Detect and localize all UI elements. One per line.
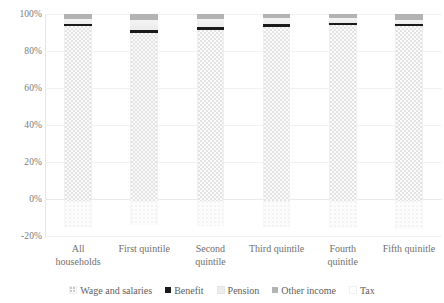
y-tick-0: 0% [0,194,42,204]
segment-pension[interactable] [130,20,158,29]
bar-3[interactable] [197,14,225,238]
x-label-all-households: All households [45,243,111,268]
x-label-line1: Fifth quinitle [376,243,442,256]
y-tick-80: 80% [0,46,42,56]
x-label-third-quintile: Third quintile [244,243,310,256]
legend-item-tax[interactable]: Tax [349,285,375,296]
gridline-80 [45,51,442,52]
benefit-swatch-icon [165,287,171,293]
x-label-line1: All [45,243,111,256]
segment-wage-and-salaries[interactable] [329,25,357,200]
segment-benefit[interactable] [64,24,92,26]
x-label-line2: quintile [177,256,243,269]
x-label-line2: quinitle [310,256,376,269]
segment-tax[interactable] [263,201,291,227]
x-label-line1: First quintile [111,243,177,256]
bar-2[interactable] [130,14,158,238]
gridline-0 [45,199,442,200]
x-label-first-quintile: First quintile [111,243,177,256]
legend-item-wage-and-salaries[interactable]: Wage and salaries [69,285,152,296]
segment-pension[interactable] [329,18,357,23]
legend-label: Other income [281,285,336,296]
tax-swatch-icon [349,286,357,294]
segment-wage-and-salaries[interactable] [395,26,423,201]
segment-tax[interactable] [329,201,357,228]
segment-other-income[interactable] [197,14,225,19]
segment-wage-and-salaries[interactable] [263,27,291,201]
segment-wage-and-salaries[interactable] [64,26,92,201]
x-label-line1: Fourth [310,243,376,256]
legend-item-pension[interactable]: Pension [217,285,260,296]
legend-label: Tax [360,285,375,296]
segment-other-income[interactable] [64,14,92,19]
bar-4[interactable] [263,14,291,238]
gridline-neg20 [45,236,442,237]
legend-label: Benefit [174,285,203,296]
chart-legend: Wage and salaries Benefit Pension Other … [0,281,444,299]
segment-wage-and-salaries[interactable] [197,30,225,201]
wages-swatch-icon [69,286,77,294]
pension-swatch-icon [217,286,225,294]
segment-pension[interactable] [395,20,423,24]
y-axis-tick-labels: 100% 80% 60% 40% 20% 0% -20% [0,0,42,303]
gridline-60 [45,88,442,89]
segment-tax[interactable] [130,201,158,225]
bar-1[interactable] [64,14,92,238]
y-tick-neg20: -20% [0,231,42,241]
y-tick-40: 40% [0,120,42,130]
segment-other-income[interactable] [130,14,158,20]
segment-benefit[interactable] [197,27,225,29]
gridline-40 [45,125,442,126]
segment-other-income[interactable] [329,14,357,18]
x-label-line1: Third quintile [244,243,310,256]
legend-item-benefit[interactable]: Benefit [165,285,203,296]
x-label-line2: households [45,256,111,269]
y-tick-100: 100% [0,9,42,19]
segment-wage-and-salaries[interactable] [130,33,158,201]
gridline-20 [45,162,442,163]
segment-other-income[interactable] [263,14,291,18]
bar-5[interactable] [329,14,357,238]
segment-benefit[interactable] [329,23,357,25]
segment-benefit[interactable] [263,24,291,26]
segment-benefit[interactable] [130,30,158,33]
segment-tax[interactable] [197,201,225,226]
x-label-fourth-quintile: Fourth quinitle [310,243,376,268]
segment-pension[interactable] [263,18,291,24]
legend-item-other-income[interactable]: Other income [272,285,336,296]
segment-benefit[interactable] [395,24,423,26]
segment-tax[interactable] [395,201,423,229]
segment-tax[interactable] [64,201,92,227]
legend-label: Pension [228,285,260,296]
gridline-100 [45,14,442,15]
segment-pension[interactable] [197,19,225,27]
bar-6[interactable] [395,14,423,238]
x-label-second-quintile: Second quintile [177,243,243,268]
other-income-swatch-icon [272,287,278,293]
legend-label: Wage and salaries [80,285,152,296]
segment-pension[interactable] [64,19,92,24]
x-axis-category-labels: All households First quintile Second qui… [45,243,442,277]
y-tick-20: 20% [0,157,42,167]
x-label-line1: Second [177,243,243,256]
x-label-fifth-quintile: Fifth quinitle [376,243,442,256]
stacked-bar-chart: 100% 80% 60% 40% 20% 0% -20% All househo… [0,0,444,303]
plot-area [45,14,442,238]
y-tick-60: 60% [0,83,42,93]
segment-other-income[interactable] [395,14,423,20]
